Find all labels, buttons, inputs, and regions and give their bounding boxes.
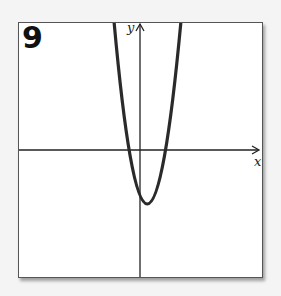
x-axis-label: x [254, 154, 261, 169]
graph-canvas [0, 0, 281, 296]
parabola-curve [113, 10, 182, 204]
y-axis-label: y [127, 20, 134, 35]
